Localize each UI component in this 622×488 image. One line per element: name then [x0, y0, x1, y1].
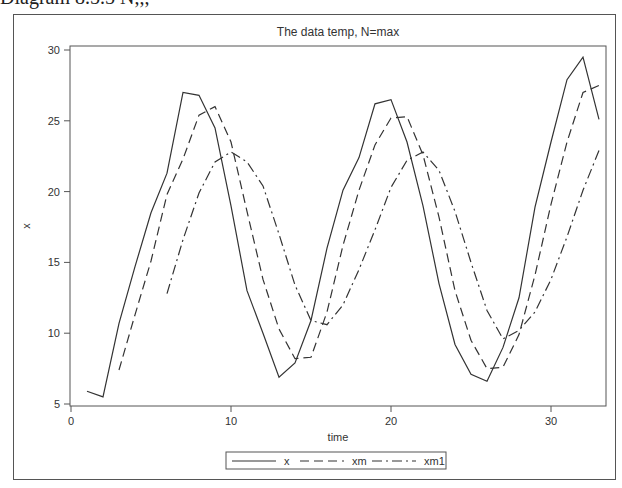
x-tick-label: 0	[68, 415, 74, 427]
y-tick-label: 15	[48, 256, 60, 268]
series-lines	[87, 57, 599, 397]
x-axis: 0102030	[68, 406, 557, 427]
series-xm-line	[119, 85, 599, 370]
y-tick-label: 20	[48, 186, 60, 198]
legend-label-xm1: xm1	[424, 455, 445, 467]
y-tick-label: 10	[48, 327, 60, 339]
line-chart: The data temp, N=max 51015202530 0102030…	[0, 0, 622, 488]
plot-area	[70, 46, 606, 406]
legend: xxmxm1	[226, 452, 446, 469]
x-tick-label: 20	[385, 415, 397, 427]
x-tick-label: 10	[225, 415, 237, 427]
series-x-line	[87, 57, 599, 397]
y-axis: 51015202530	[48, 44, 70, 410]
x-tick-label: 30	[545, 415, 557, 427]
legend-label-x: x	[284, 455, 290, 467]
chart-title: The data temp, N=max	[277, 25, 399, 39]
y-axis-label: x	[20, 223, 32, 229]
y-tick-label: 5	[54, 398, 60, 410]
y-tick-label: 25	[48, 115, 60, 127]
series-xm1-line	[167, 151, 599, 339]
x-axis-label: time	[328, 431, 349, 443]
y-tick-label: 30	[48, 44, 60, 56]
legend-label-xm: xm	[352, 455, 367, 467]
